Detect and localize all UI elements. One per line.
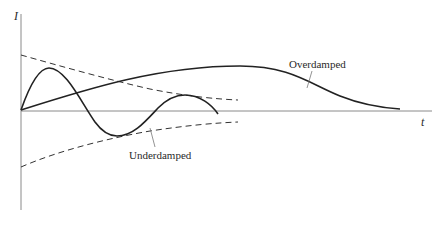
underdamped-label: Underdamped — [129, 149, 192, 161]
upper-envelope-curve — [21, 55, 238, 100]
t-axis-label: t — [421, 115, 425, 129]
overdamped-curve — [21, 66, 400, 110]
underdamped-leader-line — [150, 128, 155, 147]
y-axis-label: I — [13, 9, 19, 23]
damping-diagram: I t Overdamped Underdamped — [0, 0, 445, 225]
overdamped-leader-line — [307, 71, 312, 88]
overdamped-label: Overdamped — [289, 58, 346, 70]
